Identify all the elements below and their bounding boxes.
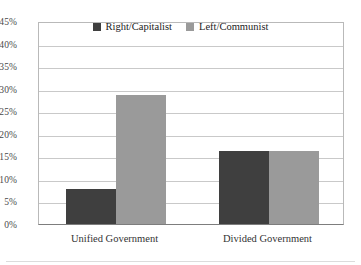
bar-group — [66, 23, 166, 224]
plot-area — [38, 22, 344, 225]
y-axis-tick-label: 40% — [0, 40, 17, 50]
y-axis-tick-label: 20% — [0, 130, 17, 140]
bottom-divider — [6, 261, 355, 262]
bar-group — [219, 23, 319, 224]
y-axis-tick-label: 15% — [0, 152, 17, 162]
y-axis-tick-label: 0% — [0, 220, 17, 230]
bar — [116, 95, 166, 224]
bar — [219, 151, 269, 224]
x-axis-tick-label: Unified Government — [35, 233, 195, 244]
bar — [269, 151, 319, 224]
y-axis-tick-label: 30% — [0, 85, 17, 95]
y-axis-tick-label: 45% — [0, 17, 17, 27]
y-axis-tick-label: 5% — [0, 197, 17, 207]
y-axis-tick-label: 35% — [0, 62, 17, 72]
x-axis-tick-label: Divided Government — [188, 233, 348, 244]
bar — [66, 189, 116, 224]
y-axis-tick-label: 25% — [0, 107, 17, 117]
bar-chart: 45%40%35%30%25%20%15%10%5%0% Right/Capit… — [0, 0, 361, 265]
y-axis-tick-label: 10% — [0, 175, 17, 185]
